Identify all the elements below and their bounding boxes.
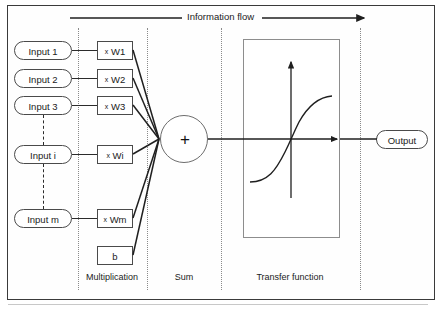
wire-input-2-to-weight <box>72 78 97 79</box>
output-node-label: Output <box>388 135 417 146</box>
stage-caption-multiplication: Multiplication <box>62 272 162 282</box>
input-node-m-label: Input m <box>27 214 59 225</box>
weight-box-1[interactable]: x W1 <box>97 41 133 60</box>
input-node-3-label: Input 3 <box>28 101 57 112</box>
stage-caption-transfer-function: Transfer function <box>235 272 345 282</box>
wire-input-1-to-weight <box>72 50 97 51</box>
bias-box-label: b <box>112 251 117 262</box>
weight-box-2-label: W2 <box>111 74 125 85</box>
weight-box-m[interactable]: x Wm <box>97 209 133 228</box>
weight-box-i-operator: x <box>106 152 110 159</box>
weight-box-2-operator: x <box>105 76 109 83</box>
weight-box-m-operator: x <box>103 216 107 223</box>
weight-box-i-label: Wi <box>113 150 124 161</box>
scan-artifact-line <box>8 304 428 305</box>
input-node-2-label: Input 2 <box>28 74 57 85</box>
input-node-3[interactable]: Input 3 <box>14 96 72 115</box>
input-node-m[interactable]: Input m <box>14 209 72 228</box>
output-node[interactable]: Output <box>376 130 428 149</box>
bias-box[interactable]: b <box>97 246 133 265</box>
weight-box-1-operator: x <box>105 48 109 55</box>
transfer-function-panel <box>243 39 340 238</box>
input-ellipsis-connector-lower <box>43 164 44 209</box>
plus-icon: + <box>161 116 209 164</box>
input-ellipsis-connector-upper <box>43 115 44 145</box>
stage-caption-sum: Sum <box>154 272 214 282</box>
weight-box-3[interactable]: x W3 <box>97 96 133 115</box>
weight-box-3-operator: x <box>105 103 109 110</box>
wire-input-3-to-weight <box>72 105 97 106</box>
input-node-1-label: Input 1 <box>28 46 57 57</box>
summation-node[interactable]: + <box>160 115 208 163</box>
input-node-2[interactable]: Input 2 <box>14 69 72 88</box>
stage-divider-2 <box>147 28 148 290</box>
input-node-i-label: Input i <box>30 150 56 161</box>
stage-divider-1 <box>78 28 79 290</box>
input-node-1[interactable]: Input 1 <box>14 41 72 60</box>
wire-input-i-to-weight <box>72 154 97 155</box>
input-node-i[interactable]: Input i <box>14 145 72 164</box>
weight-box-m-label: Wm <box>110 214 127 225</box>
wire-input-m-to-weight <box>72 218 97 219</box>
information-flow-label: Information flow <box>185 11 256 22</box>
weight-box-2[interactable]: x W2 <box>97 69 133 88</box>
stage-divider-4 <box>360 28 361 290</box>
weight-box-i[interactable]: x Wi <box>97 145 133 164</box>
weight-box-3-label: W3 <box>111 101 125 112</box>
stage-divider-3 <box>221 28 222 290</box>
weight-box-1-label: W1 <box>111 46 125 57</box>
figure-canvas: Information flow Input 1 Input 2 Input 3… <box>0 0 444 319</box>
